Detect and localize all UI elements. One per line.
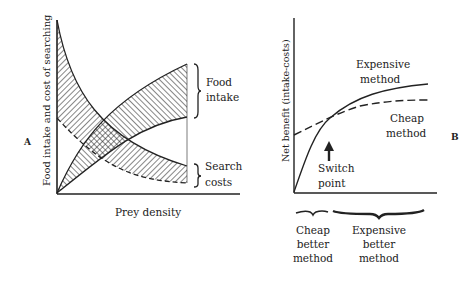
switch-label-line1: Switch (318, 162, 355, 174)
expensive-label-line1: Expensive (356, 58, 410, 70)
cheap-label-line2: method (386, 127, 426, 139)
a-x-axis-label: Prey density (115, 206, 181, 218)
cheap-better-brace (296, 211, 328, 215)
bottom-right-line1: Expensive (352, 224, 406, 236)
b-y-axis-label: Net benefit (intake-costs) (280, 39, 291, 162)
bottom-right-line2: better (363, 238, 397, 250)
a-y-axis-label: Food intake and cost of searching (41, 14, 52, 186)
panel-a: A Food intake and cost of searching Prey… (23, 14, 243, 218)
panel-b-label: B (451, 132, 459, 142)
bottom-left-line2: better (297, 238, 331, 250)
food-label-line1: Food (206, 76, 232, 88)
panel-b: B Net benefit (intake-costs) Expensive m… (280, 18, 459, 264)
food-label-line2: intake (206, 91, 239, 103)
bottom-right-line3: method (359, 252, 399, 264)
food-brace (194, 64, 201, 118)
expensive-better-brace (333, 210, 424, 218)
figure: A Food intake and cost of searching Prey… (0, 0, 476, 281)
switch-label-line2: point (318, 177, 346, 189)
panel-a-label: A (23, 137, 32, 147)
search-label-line1: Search (205, 160, 243, 172)
search-label-line2: costs (205, 176, 232, 188)
bottom-left-line3: method (293, 252, 333, 264)
switch-point-arrow (324, 141, 334, 161)
cheap-label-line1: Cheap (390, 112, 424, 124)
search-brace (194, 164, 201, 187)
bottom-left-line1: Cheap (296, 224, 330, 236)
expensive-label-line2: method (360, 73, 400, 85)
